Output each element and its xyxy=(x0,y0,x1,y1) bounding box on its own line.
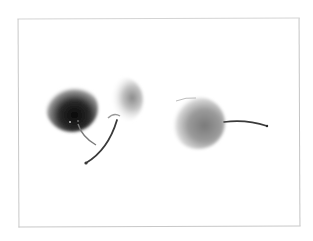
dark-cherry xyxy=(46,84,98,145)
cherries-photo xyxy=(0,0,313,241)
right-cherry xyxy=(171,97,268,149)
